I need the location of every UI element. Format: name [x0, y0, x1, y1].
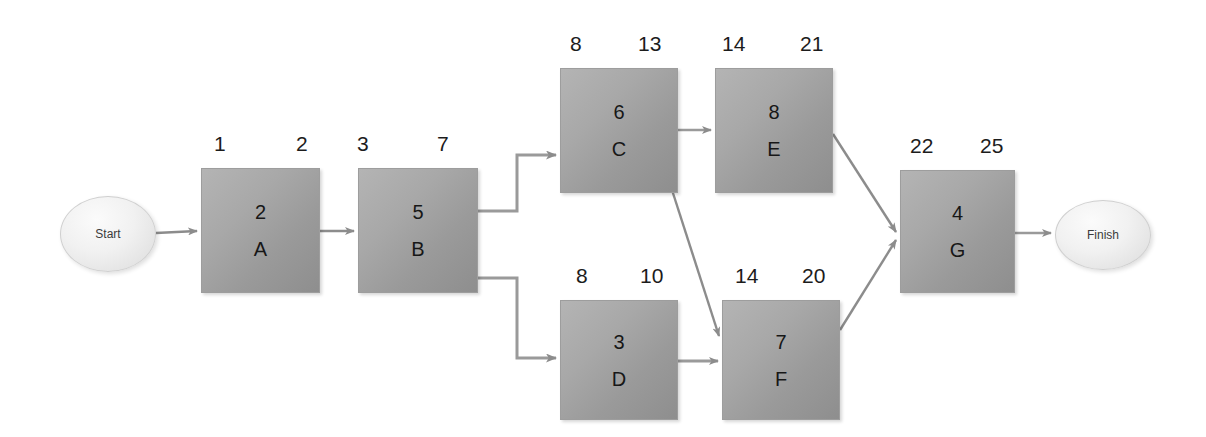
edge-b-to-c: [478, 155, 556, 211]
node-d-early-start: 8: [576, 265, 588, 286]
node-c[interactable]: 6 C: [560, 68, 678, 193]
node-e-early-finish: 21: [800, 33, 823, 54]
terminal-start[interactable]: Start: [60, 196, 156, 272]
node-b-early-start: 3: [357, 133, 369, 154]
node-a[interactable]: 2 A: [201, 168, 320, 293]
node-a-early-finish: 2: [296, 133, 308, 154]
node-e-early-start: 14: [722, 33, 745, 54]
node-b-early-finish: 7: [437, 133, 449, 154]
node-b[interactable]: 5 B: [358, 168, 478, 293]
node-b-label: B: [411, 239, 424, 259]
node-d-label: D: [612, 369, 626, 389]
node-f-label: F: [775, 369, 787, 389]
node-f-early-start: 14: [735, 265, 758, 286]
node-b-duration: 5: [412, 202, 423, 222]
edge-f-to-g: [840, 240, 896, 330]
node-a-early-start: 1: [214, 133, 226, 154]
edge-b-to-d: [478, 278, 556, 358]
node-c-label: C: [612, 139, 626, 159]
node-f[interactable]: 7 F: [722, 300, 840, 420]
node-e-duration: 8: [768, 102, 779, 122]
edge-e-to-g: [833, 134, 896, 232]
node-c-early-start: 8: [570, 33, 582, 54]
node-c-duration: 6: [613, 102, 624, 122]
node-e-label: E: [767, 139, 780, 159]
edge-c-to-f: [672, 190, 719, 336]
node-g-early-start: 22: [910, 135, 933, 156]
node-a-duration: 2: [255, 202, 266, 222]
node-f-early-finish: 20: [802, 265, 825, 286]
node-d-duration: 3: [613, 332, 624, 352]
terminal-finish[interactable]: Finish: [1055, 200, 1151, 270]
network-diagram-canvas: Start Finish 2 A 1 2 5 B 3 7 6 C 8 13 8 …: [0, 0, 1206, 437]
node-g-label: G: [950, 240, 966, 260]
node-g-duration: 4: [952, 203, 963, 223]
node-c-early-finish: 13: [638, 33, 661, 54]
node-g[interactable]: 4 G: [900, 170, 1015, 293]
node-e[interactable]: 8 E: [715, 68, 833, 193]
node-f-duration: 7: [775, 332, 786, 352]
node-d-early-finish: 10: [640, 265, 663, 286]
terminal-start-label: Start: [95, 227, 120, 241]
node-g-early-finish: 25: [980, 135, 1003, 156]
edge-start-to-a: [156, 231, 197, 233]
node-a-label: A: [254, 239, 267, 259]
node-d[interactable]: 3 D: [560, 300, 678, 420]
terminal-finish-label: Finish: [1087, 228, 1119, 242]
